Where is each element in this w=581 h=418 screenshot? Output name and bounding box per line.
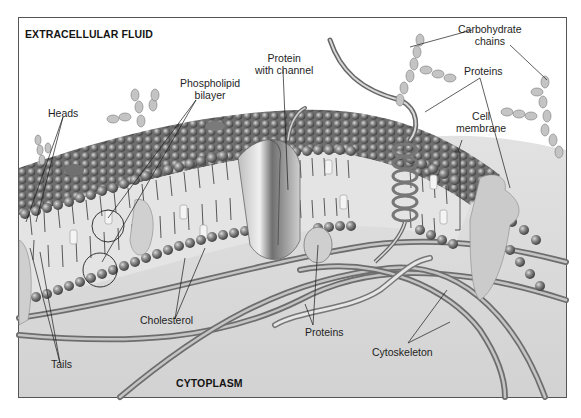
label-carbohydrate-line1: Carbohydrate (458, 23, 522, 35)
label-phospholipid-bilayer: Phospholipid bilayer (180, 77, 240, 101)
label-cell-membrane-line2: membrane (456, 122, 506, 134)
label-phospholipid-line2: bilayer (180, 89, 240, 101)
label-cell-membrane-line1: Cell (456, 110, 506, 122)
surface-pore (64, 164, 84, 176)
label-carbohydrate-line2: chains (458, 35, 522, 47)
label-heads: Heads (48, 107, 78, 119)
label-protein-with-channel: Protein with channel (255, 52, 313, 76)
label-phospholipid-line1: Phospholipid (180, 77, 240, 89)
label-cytoskeleton: Cytoskeleton (372, 346, 433, 358)
label-tails: Tails (51, 358, 72, 370)
label-cholesterol: Cholesterol (140, 314, 193, 326)
region-label-cytoplasm: CYTOPLASM (176, 377, 243, 389)
label-proteins-top: Proteins (464, 65, 503, 77)
label-protein-channel-line1: Protein (255, 52, 313, 64)
region-label-extracellular: EXTRACELLULAR FLUID (25, 28, 153, 40)
label-proteins-bottom: Proteins (305, 326, 344, 338)
label-carbohydrate-chains: Carbohydrate chains (458, 23, 522, 47)
label-protein-channel-line2: with channel (255, 64, 313, 76)
cell-membrane-diagram: EXTRACELLULAR FLUID CYTOPLASM Heads Phos… (0, 0, 581, 418)
label-cell-membrane: Cell membrane (456, 110, 506, 134)
surface-bump (205, 121, 225, 131)
